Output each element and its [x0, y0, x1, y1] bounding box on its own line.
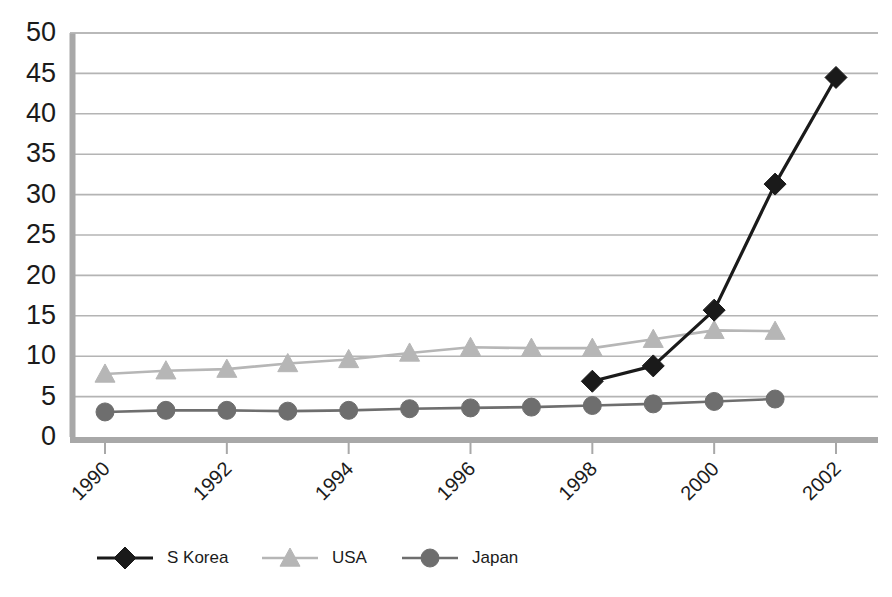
x-axis-tick-label: 1992: [189, 457, 236, 504]
legend-marker-diamond-icon: [114, 547, 136, 569]
y-axis-tick-label: 15: [26, 300, 56, 330]
data-point-marker: [705, 392, 723, 410]
data-point-marker: [644, 395, 662, 413]
series-usa: [95, 320, 785, 382]
series-japan: [96, 390, 784, 421]
x-axis-tick-label: 1998: [554, 457, 601, 504]
gridlines: [70, 33, 878, 397]
data-point-marker: [764, 173, 786, 195]
y-axis-tick-label: 40: [26, 98, 56, 128]
x-axis-tick-label: 1990: [67, 457, 114, 504]
series-line: [105, 399, 775, 412]
line-chart: 05101520253035404550 1990199219941996199…: [0, 0, 892, 597]
y-axis-tick-label: 20: [26, 260, 56, 290]
data-point-marker: [401, 400, 419, 418]
data-series-group: [95, 66, 847, 421]
data-point-marker: [340, 401, 358, 419]
data-point-marker: [581, 370, 603, 392]
x-axis-tick-labels: 1990199219941996199820002002: [67, 443, 845, 504]
legend-label: Japan: [472, 548, 518, 567]
chart-axes: [70, 33, 878, 440]
data-point-marker: [157, 401, 175, 419]
data-point-marker: [96, 403, 114, 421]
legend-item-s-korea[interactable]: S Korea: [97, 547, 229, 569]
legend-item-japan[interactable]: Japan: [402, 548, 518, 567]
legend-label: USA: [332, 548, 368, 567]
data-point-marker: [218, 401, 236, 419]
x-axis-tick-label: 2000: [676, 457, 723, 504]
y-axis-tick-label: 45: [26, 58, 56, 88]
x-axis-tick-label: 1996: [432, 457, 479, 504]
y-axis-tick-label: 25: [26, 219, 56, 249]
x-axis-tick-label: 1994: [310, 457, 357, 504]
y-axis-tick-label: 5: [41, 381, 56, 411]
chart-container: 05101520253035404550 1990199219941996199…: [0, 0, 892, 597]
chart-legend: S KoreaUSAJapan: [97, 547, 518, 569]
y-axis-tick-label: 50: [26, 17, 56, 47]
data-point-marker: [766, 390, 784, 408]
legend-item-usa[interactable]: USA: [262, 548, 368, 567]
y-axis-tick-label: 0: [41, 421, 56, 451]
y-axis-tick-label: 10: [26, 340, 56, 370]
data-point-marker: [583, 396, 601, 414]
y-axis-tick-labels: 05101520253035404550: [26, 17, 56, 451]
data-point-marker: [462, 399, 480, 417]
series-line: [105, 330, 775, 374]
legend-marker-circle-icon: [421, 549, 439, 567]
y-axis-tick-label: 35: [26, 138, 56, 168]
y-axis-tick-label: 30: [26, 179, 56, 209]
data-point-marker: [825, 66, 847, 88]
data-point-marker: [279, 402, 297, 420]
legend-label: S Korea: [167, 548, 229, 567]
x-axis-tick-label: 2002: [798, 457, 845, 504]
data-point-marker: [522, 398, 540, 416]
